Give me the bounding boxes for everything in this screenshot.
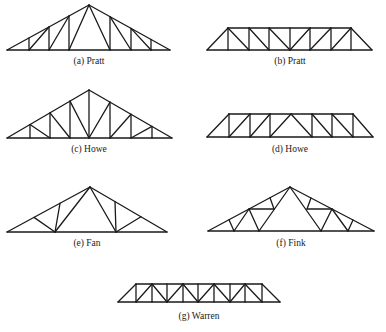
caption-fan: (e) Fan <box>73 238 100 249</box>
diagonal-member <box>70 101 89 138</box>
web-member <box>270 198 274 209</box>
web-member <box>348 220 353 231</box>
end-post <box>207 28 228 50</box>
diagonal-member <box>131 126 152 138</box>
top-chord <box>89 5 170 50</box>
web-member <box>229 220 234 231</box>
end-post <box>118 284 136 302</box>
top-chord <box>7 187 90 232</box>
diagonal-member <box>291 114 312 137</box>
warren-bridge-truss <box>118 284 280 302</box>
diagonal-member <box>89 102 110 138</box>
web-member <box>307 198 311 209</box>
top-chord <box>90 187 167 232</box>
diagonal-member <box>50 113 70 138</box>
diagonal-member <box>69 5 89 50</box>
caption-warren: (g) Warren <box>179 311 220 322</box>
diagonal-member <box>229 114 250 137</box>
end-post <box>353 114 373 137</box>
caption-pratt-bridge: (b) Pratt <box>274 56 306 67</box>
diagonal-member <box>214 284 230 302</box>
caption-howe-bridge: (d) Howe <box>272 144 308 155</box>
diagonal-member <box>332 114 353 137</box>
howe-roof-truss <box>7 90 172 138</box>
web-member <box>249 209 259 231</box>
diagonal-member <box>167 284 183 302</box>
diagonal-member <box>29 27 49 50</box>
diagonal-member <box>331 28 351 50</box>
diagonal-member <box>131 28 151 50</box>
end-post <box>207 114 229 137</box>
howe-bridge-truss <box>207 114 373 137</box>
diagonal-member <box>198 284 214 302</box>
diagonal-member <box>89 5 110 50</box>
diagonal-member <box>30 125 50 138</box>
fan-member <box>90 187 116 232</box>
diagonal-member <box>245 284 262 302</box>
end-post <box>262 284 280 302</box>
diagonal-member <box>310 28 331 50</box>
diagonal-member <box>250 114 270 137</box>
pratt-bridge-truss <box>207 28 372 50</box>
pratt-roof-truss <box>7 5 170 50</box>
diagonal-member <box>249 28 269 50</box>
diagonal-member <box>110 114 131 138</box>
web-member <box>332 209 348 231</box>
fan-roof-truss <box>7 187 167 232</box>
diagonal-member <box>152 284 167 302</box>
diagonal-member <box>269 28 290 50</box>
fan-member <box>55 187 90 232</box>
caption-pratt-roof: (a) Pratt <box>74 56 105 67</box>
diagonal-member <box>230 284 245 302</box>
diagonal-member <box>228 28 249 50</box>
fink-roof-truss <box>208 187 374 231</box>
web-member <box>321 209 332 231</box>
fan-member <box>116 217 141 232</box>
truss-types-figure: (a) Pratt (b) Pratt (c) Howe (d) Howe (e… <box>0 0 386 332</box>
fan-member <box>55 203 60 232</box>
caption-howe-roof: (c) Howe <box>71 144 107 155</box>
diagonal-member <box>136 284 152 302</box>
diagonal-member <box>290 28 310 50</box>
diagonal-member <box>183 284 198 302</box>
diagonal-member <box>110 17 131 50</box>
caption-fink: (f) Fink <box>276 238 306 249</box>
fan-member <box>115 202 116 232</box>
fan-member <box>34 217 55 232</box>
diagonal-member <box>270 114 291 137</box>
end-post <box>351 28 372 50</box>
diagonal-member <box>312 114 332 137</box>
